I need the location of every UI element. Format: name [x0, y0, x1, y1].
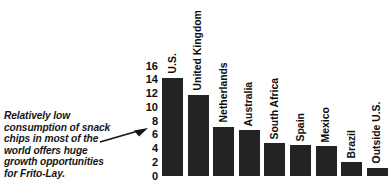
bar [239, 130, 260, 176]
y-axis-tick-label: 0 [142, 171, 158, 182]
y-axis-tick-label: 12 [142, 88, 158, 99]
bar-series: U.S.United KingdomNetherlandsAustraliaSo… [160, 0, 385, 192]
bar-category-label: United Kingdom [193, 11, 203, 91]
bar [264, 143, 285, 176]
bar-category-label: U.S. [167, 53, 177, 73]
bar-category-label: South Africa [269, 78, 279, 139]
bar [162, 78, 183, 176]
bar [290, 145, 311, 176]
y-axis-tick-label: 14 [142, 74, 158, 85]
y-axis-tick-label: 4 [142, 143, 158, 154]
y-axis-tick-label: 8 [142, 116, 158, 127]
y-axis-tick-label: 16 [142, 61, 158, 72]
bar-category-label: Mexico [321, 107, 331, 142]
bar [316, 146, 337, 176]
bar [341, 162, 362, 176]
y-axis-tick-label: 2 [142, 157, 158, 168]
y-axis: 0246810121416 [141, 0, 158, 192]
bar-category-label: Brazil [346, 130, 356, 158]
bar-category-label: Spain [295, 113, 305, 141]
y-axis-tick-label: 6 [142, 129, 158, 140]
bar [188, 95, 209, 176]
bar-category-label: Outside U.S. [372, 102, 382, 164]
bar [367, 168, 388, 176]
bar-category-label: Netherlands [218, 62, 228, 122]
bar [213, 127, 234, 177]
plot-area: 0246810121416 U.S.United KingdomNetherla… [141, 0, 385, 192]
bar-category-label: Australia [244, 81, 254, 125]
y-axis-tick-label: 10 [142, 102, 158, 113]
